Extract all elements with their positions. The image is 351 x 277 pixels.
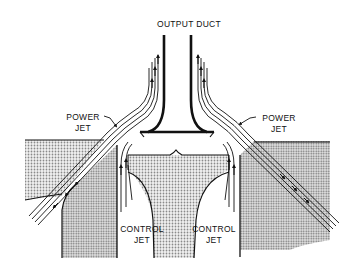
control-jet-left-label-1: CONTROL [120,224,164,234]
left-control-jet-stream [121,142,132,212]
power-jet-left-label-2: JET [75,123,91,133]
power-jet-right-label-2: JET [271,124,287,134]
power-jet-right-label-1: POWER [262,113,296,123]
output-duct-right-wall [191,35,214,132]
control-jet-left-label-2: JET [134,235,150,245]
fluidic-diagram: OUTPUT DUCT POWER JET POWER JET CONTROL … [0,0,351,277]
right-control-jet-stream [223,142,234,212]
power-jet-left-label-1: POWER [66,112,100,122]
control-jet-right-label-2: JET [206,235,222,245]
output-duct-label: OUTPUT DUCT [157,19,221,29]
control-jet-right-label-1: CONTROL [192,224,236,234]
